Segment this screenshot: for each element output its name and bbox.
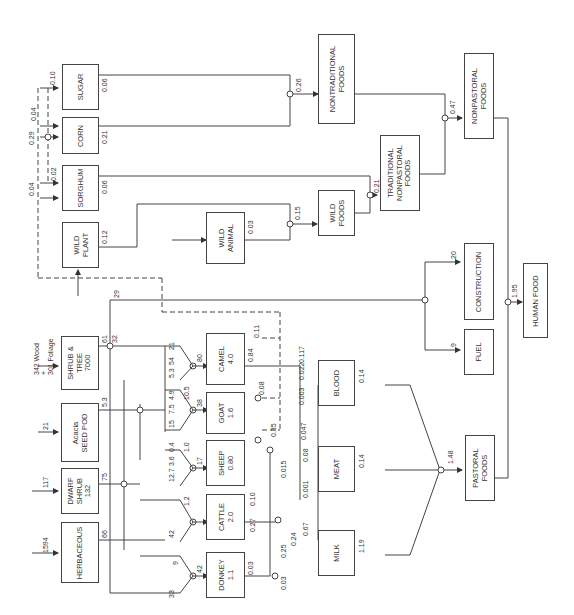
- flow-wild-foods: 0.15: [294, 206, 301, 220]
- flow-goat-a: 10.5: [183, 386, 190, 400]
- flow-donkey-b: 33: [168, 590, 175, 598]
- node-milk: MILK: [318, 530, 355, 576]
- node-nonpastoral-foods: NONPASTORAL FOODS: [464, 53, 494, 139]
- input-acacia: 21: [42, 422, 49, 430]
- node-acacia-seed-pod: Acacia SEED POD: [61, 403, 99, 462]
- flow-goat-d: 15: [168, 420, 175, 428]
- node-nontraditional-foods: NONTRADITIONAL FOODS: [318, 34, 355, 124]
- energy-flow-diagram: SUGAR CORN SORGHUM WILD PLANT WILD ANIMA…: [0, 0, 574, 615]
- flow-goat-in: 38: [196, 399, 203, 407]
- flow-goat-b: 4.9: [168, 390, 175, 400]
- flow-cattle-b: 42: [168, 530, 175, 538]
- flow-meat-out: 0.14: [358, 454, 365, 468]
- node-goat: GOAT 1.6: [206, 392, 245, 434]
- flow-blood-b: 0.047: [300, 422, 307, 440]
- flow-cattle-to-nontrad: 0.10: [249, 492, 256, 506]
- flow-sugar-out: 0.06: [101, 78, 108, 92]
- flow-milk-a: 0.25: [280, 544, 287, 558]
- node-cattle: CATTLE 2.0: [206, 494, 245, 540]
- flow-camel-out: 0.84: [247, 348, 254, 362]
- flow-human-food: 1.95: [511, 284, 518, 298]
- node-construction: CONSTRUCTION: [464, 243, 494, 320]
- flow-goat-c: 7.5: [168, 404, 175, 414]
- flow-meat-a: 0.015: [280, 460, 287, 478]
- node-fuel: FUEL: [464, 329, 494, 375]
- node-traditional-nonpastoral-foods: TRADITIONAL NONPASTORAL FOODS: [380, 135, 420, 211]
- flow-cattle-out: 0.27: [249, 518, 256, 532]
- flow-sheep-a: 1.0: [183, 442, 190, 452]
- flow-donkey-a: 9: [172, 561, 179, 565]
- flow-dwarf-out: 75: [101, 473, 108, 481]
- node-herbaceous: HERBACEOUS: [61, 522, 99, 583]
- flow-nontraditional: 0.26: [295, 78, 302, 92]
- node-sorghum: SORGHUM: [62, 165, 99, 211]
- flow-sorghum-out: 0.06: [101, 180, 108, 194]
- flow-sheep-c: 3.6: [168, 456, 175, 466]
- node-shrub-tree: SHRUB & TREE 7000: [61, 336, 99, 390]
- flow-shrub-out-b: 32: [111, 335, 118, 343]
- flow-sheep-in: 17: [196, 457, 203, 465]
- flow-wild-plant-out: 0.12: [101, 230, 108, 244]
- flow-milk-d: 0.03: [280, 576, 287, 590]
- flow-pastoral: 1.48: [447, 450, 454, 464]
- flow-corn-out: 0.21: [101, 130, 108, 144]
- flow-camel-browse: 21: [168, 342, 175, 350]
- flow-milk-b: 0.24: [290, 532, 297, 546]
- flow-wild-animal-out: 0.03: [247, 220, 254, 234]
- node-wild-animal: WILD ANIMAL: [206, 212, 245, 264]
- flow-sugar-in: 0.10: [49, 71, 56, 85]
- flow-traditional-nonpastoral: 0.21: [373, 179, 380, 193]
- flow-corn-in-a: 0.04: [30, 107, 37, 121]
- node-wild-plant: WILD PLANT: [62, 222, 99, 268]
- flow-meat-b: 0.08: [302, 448, 309, 462]
- flow-camel-milk: 0.117: [298, 346, 305, 363]
- flow-construction-flow: 29: [113, 290, 120, 298]
- node-sugar: SUGAR: [62, 64, 99, 110]
- flow-blood-out: 0.14: [358, 369, 365, 383]
- input-shrub-tree: 342 Wood + 301 Foliage: [33, 338, 54, 375]
- flow-herb-out: 66: [101, 530, 108, 538]
- node-dwarf-shrub: DWARF SHRUB 132: [61, 468, 99, 514]
- flow-cattle-a: 1.2: [183, 496, 190, 506]
- input-dwarf-shrub: 117: [42, 477, 49, 488]
- flow-sheep-d: 12.7: [168, 468, 175, 482]
- node-camel: CAMEL 4.0: [206, 333, 245, 385]
- flow-nonpastoral: 0.47: [449, 100, 456, 114]
- flow-sheep-b: 0.4: [168, 442, 175, 452]
- node-wild-foods: WILD FOODS: [318, 190, 355, 236]
- flow-camel-to-nontrad: 0.11: [253, 325, 260, 338]
- flow-donkey-out: 0.03: [247, 561, 254, 575]
- flow-construction: 20: [450, 251, 457, 259]
- flow-shrub-out-a: 61: [101, 335, 108, 343]
- input-herbaceous: 1594: [42, 537, 49, 553]
- flow-milk-c: 0.67: [302, 522, 309, 536]
- flow-fuel: 9: [450, 343, 457, 347]
- node-blood: BLOOD: [318, 360, 355, 406]
- flow-sorghum-in-b: 0.04: [28, 182, 35, 196]
- node-corn: CORN: [62, 117, 99, 154]
- flow-camel-blood: 0.022: [298, 362, 305, 380]
- flow-meat-c: 0.001: [302, 480, 309, 498]
- node-donkey: DONKEY 1.1: [206, 552, 245, 598]
- flow-camel-dwarf: 5.3: [168, 368, 175, 378]
- node-sheep: SHEEP 0.80: [206, 440, 245, 486]
- node-meat: MEAT: [318, 446, 355, 492]
- node-pastoral-foods: PASTORAL FOODS: [465, 435, 495, 501]
- node-human-food: HUMAN FOOD: [523, 263, 548, 338]
- flow-camel-seed: 54: [168, 357, 175, 365]
- flow-corn-in-b: 0.29: [28, 131, 35, 145]
- flow-seed-out: 5.3: [101, 397, 108, 407]
- flow-camel-in: 80: [196, 354, 203, 362]
- flow-goat-to-nontrad: 0.08: [258, 381, 265, 395]
- flow-blood-a: 0.003: [298, 387, 305, 405]
- flow-donkey-in: 42: [196, 565, 203, 573]
- flow-sorghum-in-a: 0.02: [50, 167, 57, 181]
- flow-goat-sheep-out: 0.35: [270, 423, 277, 437]
- flow-milk-out: 1.19: [358, 539, 365, 553]
